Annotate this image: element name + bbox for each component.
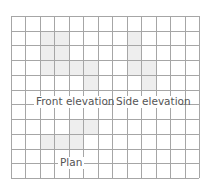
- diagram-canvas: Front elevationSide elevationPlan: [0, 0, 210, 190]
- plan-label: Plan: [60, 156, 82, 168]
- front-elevation-label: Front elevation: [36, 95, 115, 107]
- side-elevation-label: Side elevation: [116, 95, 191, 107]
- orthographic-grid-diagram: Front elevationSide elevationPlan: [0, 0, 210, 190]
